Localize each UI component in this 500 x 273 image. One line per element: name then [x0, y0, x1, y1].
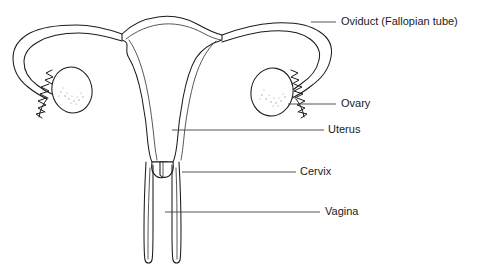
- left-fimbria-3: [38, 98, 46, 112]
- uterus-outline: [122, 16, 222, 162]
- labels-group: Oviduct (Fallopian tube) Ovary Uterus Ce…: [300, 15, 458, 217]
- label-vagina: Vagina: [325, 205, 359, 217]
- uterus-group: [122, 16, 222, 162]
- left-ovary: [48, 63, 97, 116]
- label-uterus: Uterus: [328, 123, 361, 135]
- label-oviduct: Oviduct (Fallopian tube): [341, 15, 458, 27]
- right-ovary: [247, 65, 297, 120]
- anatomy-diagram: Oviduct (Fallopian tube) Ovary Uterus Ce…: [0, 0, 500, 273]
- vagina-right-wall-inner: [176, 168, 177, 259]
- right-ovary-group: [247, 65, 297, 120]
- label-cervix: Cervix: [300, 165, 332, 177]
- right-fimbria-3: [297, 98, 305, 112]
- right-fimbria-1: [291, 70, 299, 84]
- anatomy-illustration: Oviduct (Fallopian tube) Ovary Uterus Ce…: [0, 0, 500, 273]
- left-fimbria-1: [45, 70, 53, 84]
- left-ovary-group: [48, 63, 97, 116]
- cervix-right-lip: [160, 162, 173, 177]
- cervix-group: [152, 162, 174, 178]
- label-ovary: Ovary: [341, 97, 371, 109]
- vagina-left-wall-inner: [148, 168, 150, 259]
